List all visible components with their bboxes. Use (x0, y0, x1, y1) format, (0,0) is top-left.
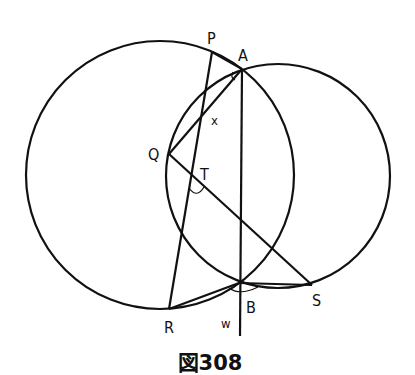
large-left-circle (26, 41, 294, 309)
label-Q: Q (148, 145, 159, 164)
segment-QA (169, 69, 242, 154)
label-R: R (164, 318, 174, 337)
segment-RB (169, 283, 239, 309)
label-w: w (221, 316, 231, 331)
label-S: S (312, 291, 321, 310)
angle-arc-T (189, 187, 204, 193)
segment-AW (240, 69, 242, 336)
figure-caption: 図308 (178, 351, 243, 375)
label-B: B (246, 298, 256, 317)
geometry-figure: P A x Q T R w B S 図308 (0, 0, 415, 375)
label-P: P (207, 29, 216, 48)
label-A: A (238, 46, 248, 65)
label-T: T (199, 165, 209, 184)
label-x: x (211, 113, 218, 128)
